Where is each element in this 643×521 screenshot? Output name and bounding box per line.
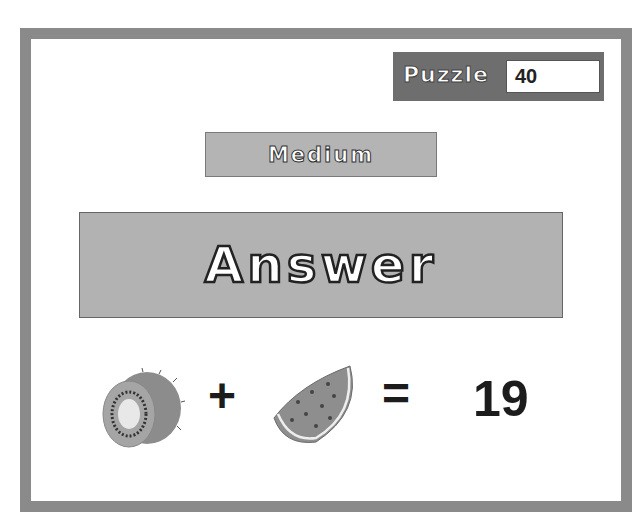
plus-operator: + (208, 368, 236, 423)
watermelon-slice-icon (270, 362, 360, 446)
difficulty-badge: Medium (205, 132, 437, 177)
puzzle-number-input[interactable]: 40 (506, 60, 600, 93)
puzzle-number-panel: Puzzle 40 (393, 52, 604, 101)
equation: + = 19 (80, 350, 560, 460)
equals-operator: = (382, 366, 410, 421)
answer-label: Answer (205, 236, 438, 294)
puzzle-label: Puzzle (403, 62, 489, 87)
result-value: 19 (473, 370, 529, 428)
difficulty-label: Medium (268, 143, 374, 167)
kiwi-icon (97, 368, 185, 450)
answer-button[interactable]: Answer (79, 212, 563, 318)
